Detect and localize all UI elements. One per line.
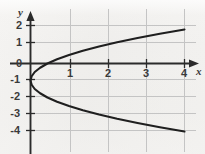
- y-tick-label-0: 0: [6, 58, 22, 69]
- y-tick-label-neg3: -3: [4, 108, 20, 119]
- x-tick-label-3: 3: [140, 68, 152, 79]
- x-tick-label-1: 1: [64, 68, 76, 79]
- y-tick-label-neg4: -4: [4, 125, 20, 136]
- x-tick-label-2: 2: [102, 68, 114, 79]
- chart-screenshot: 2 1 0 -1 -2 -3 -4 1 2 3 4 y x: [0, 0, 205, 154]
- y-tick-label-1: 1: [6, 37, 22, 48]
- x-tick-label-4: 4: [178, 68, 190, 79]
- parabola-curve: [31, 30, 185, 132]
- y-axis-label: y: [18, 7, 23, 18]
- x-axis-label: x: [196, 66, 202, 77]
- y-tick-label-neg1: -1: [4, 74, 20, 85]
- y-tick-label-2: 2: [6, 20, 22, 31]
- y-tick-label-neg2: -2: [4, 91, 20, 102]
